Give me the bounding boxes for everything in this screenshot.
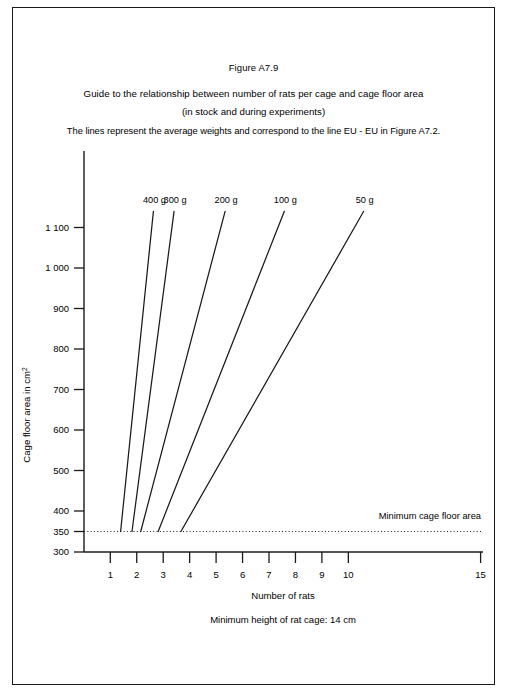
y-tick-label-350: 350 (53, 526, 69, 537)
series-line-100-g (158, 211, 284, 531)
x-tick-label-2: 2 (134, 569, 139, 580)
x-tick-label-9: 9 (319, 569, 324, 580)
y-tick-label-400: 400 (53, 505, 69, 516)
figure-page: Figure A7.9 Guide to the relationship be… (0, 0, 507, 693)
y-tick-label-1000: 1 000 (45, 262, 69, 273)
series-lines (121, 211, 364, 531)
series-label-400-g: 400 g (143, 195, 166, 205)
x-tick-label-10: 10 (343, 569, 354, 580)
x-axis-tick-labels: 1234567891015 (108, 569, 486, 580)
x-axis-title: Number of rats (251, 590, 315, 601)
series-label-50-g: 50 g (356, 195, 374, 205)
series-label-100-g: 100 g (274, 195, 297, 205)
x-tick-label-8: 8 (293, 569, 298, 580)
series-label-300-g: 300 g (164, 195, 187, 205)
series-label-200-g: 200 g (215, 195, 238, 205)
x-tick-label-3: 3 (161, 569, 166, 580)
x-tick-label-15: 15 (475, 569, 486, 580)
y-tick-label-1100: 1 100 (45, 222, 69, 233)
x-tick-label-7: 7 (266, 569, 271, 580)
y-tick-label-800: 800 (53, 343, 69, 354)
x-tick-label-6: 6 (240, 569, 245, 580)
x-tick-label-5: 5 (213, 569, 218, 580)
series-line-50-g (181, 211, 364, 531)
series-line-400-g (121, 211, 154, 531)
series-labels: 400 g300 g200 g100 g50 g (143, 195, 374, 205)
svg-text:Cage floor area in cm2: Cage floor area in cm2 (21, 367, 33, 463)
y-axis-ticks (74, 228, 84, 553)
x-tick-label-1: 1 (108, 569, 113, 580)
x-tick-label-4: 4 (187, 569, 192, 580)
y-tick-label-600: 600 (53, 424, 69, 435)
chart-canvas: 3003504005006007008009001 0001 100 12345… (0, 0, 507, 693)
minimum-cage-floor-area-label: Minimum cage floor area (379, 511, 482, 521)
y-tick-label-500: 500 (53, 465, 69, 476)
y-axis-title-superscript: 2 (21, 367, 28, 371)
y-tick-label-300: 300 (53, 546, 69, 557)
y-axis-tick-labels: 3003504005006007008009001 0001 100 (45, 222, 69, 558)
y-tick-label-700: 700 (53, 384, 69, 395)
x-axis-ticks (110, 552, 480, 563)
y-axis-title-text: Cage floor area in cm (21, 371, 32, 463)
y-axis-title: Cage floor area in cm2 (21, 367, 33, 463)
y-tick-label-900: 900 (53, 303, 69, 314)
figure-footnote: Minimum height of rat cage: 14 cm (210, 614, 356, 625)
